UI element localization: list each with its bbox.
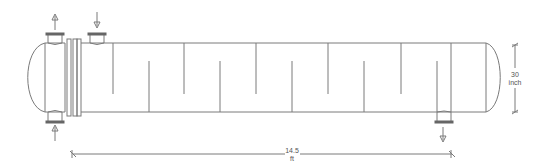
- arrow-up-icon: [52, 125, 58, 141]
- length-dimension-line: [70, 150, 455, 158]
- heat-exchanger-drawing: [0, 0, 544, 168]
- length-value: 14.5: [275, 147, 309, 155]
- length-label: 14.5 ft: [275, 147, 309, 163]
- baffles-bottom: [149, 61, 437, 112]
- baffles-top: [113, 43, 401, 94]
- arrow-up-icon: [52, 14, 58, 30]
- flange-pair: [67, 39, 81, 116]
- diameter-label: 30 inch: [503, 71, 527, 87]
- nozzle-shell-outlet: [435, 111, 453, 123]
- left-head-dome: [28, 43, 45, 112]
- arrow-down-icon: [440, 127, 446, 142]
- right-head-dome: [486, 43, 500, 112]
- length-unit: ft: [275, 155, 309, 163]
- arrow-down-icon: [94, 12, 100, 28]
- diameter-unit: inch: [503, 79, 527, 87]
- diameter-value: 30: [503, 71, 527, 79]
